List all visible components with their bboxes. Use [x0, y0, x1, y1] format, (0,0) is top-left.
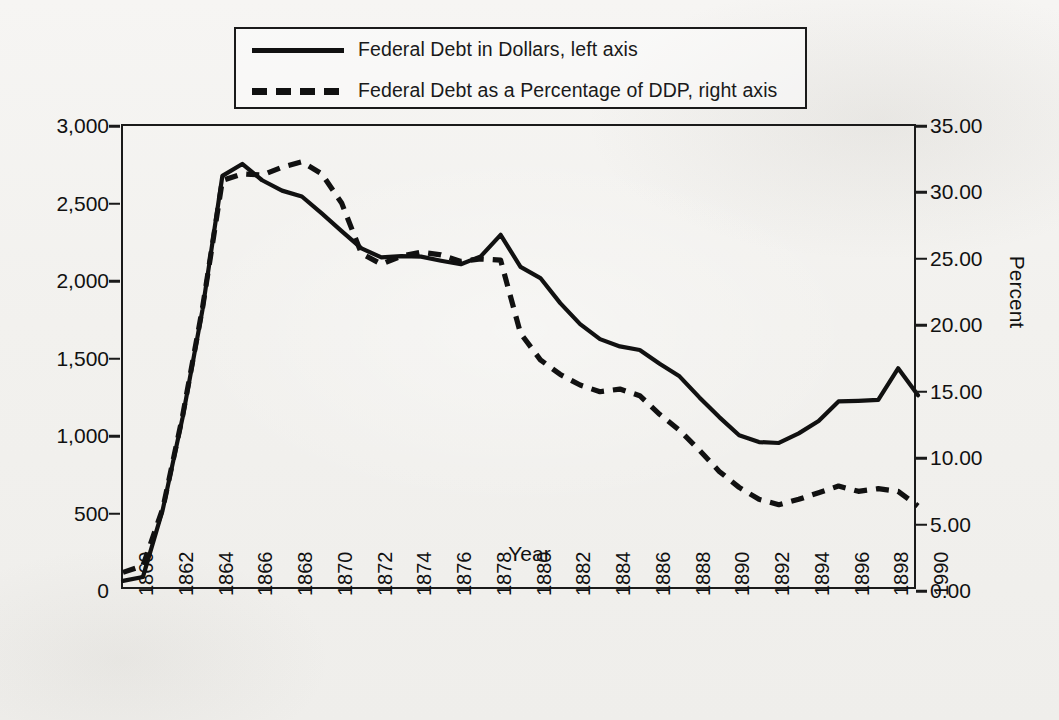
y-axis-right-tick-label: 15.00	[914, 380, 983, 404]
y-axis-left-tick-mark	[109, 357, 120, 360]
y-axis-right-tick-mark	[916, 390, 927, 393]
legend-label-federal-debt-dollars: Federal Debt in Dollars, left axis	[358, 38, 638, 61]
x-axis-title: Year	[0, 542, 1059, 566]
y-axis-left-tick-mark	[109, 512, 120, 515]
y-axis-right-tick-label: 35.00	[914, 114, 983, 138]
y-axis-left-tick-label: 1,000	[56, 424, 123, 448]
plot-area: 05001,0001,5002,0002,5003,000 0.005.0010…	[121, 124, 916, 589]
series-line-federal-debt-dollars	[123, 164, 918, 581]
y-axis-right-tick-mark	[916, 457, 927, 460]
y-axis-left-tick-label: 2,500	[56, 192, 123, 216]
y-axis-right-tick-label: 5.00	[914, 513, 971, 537]
legend-entry-federal-debt-percentage: Federal Debt as a Percentage of DDP, rig…	[236, 70, 805, 111]
series-line-federal-debt-percentage	[123, 162, 918, 573]
y-axis-right-tick-label: 25.00	[914, 247, 983, 271]
chart-legend: Federal Debt in Dollars, left axis Feder…	[234, 27, 807, 109]
y-axis-right-tick-mark	[916, 258, 927, 261]
y-axis-right-tick-label: 30.00	[914, 180, 983, 204]
legend-swatch-dashed-line	[250, 83, 346, 99]
y-axis-right-tick-label: 10.00	[914, 446, 983, 470]
y-axis-left-tick-label: 1,500	[56, 347, 123, 371]
y-axis-left-tick-mark	[109, 435, 120, 438]
y-axis-right-tick-mark	[916, 191, 927, 194]
y-axis-right-title: Percent	[1005, 256, 1029, 328]
legend-label-federal-debt-percentage: Federal Debt as a Percentage of DDP, rig…	[358, 79, 777, 102]
y-axis-left-tick-mark	[109, 202, 120, 205]
y-axis-left-tick-mark	[109, 125, 120, 128]
figure-federal-debt-chart: Federal Debt in Dollars, left axis Feder…	[0, 0, 1059, 720]
y-axis-left-tick-label: 3,000	[56, 114, 123, 138]
y-axis-left-tick-label: 500	[74, 502, 123, 526]
y-axis-left-tick-label: 2,000	[56, 269, 123, 293]
y-axis-right-tick-label: 20.00	[914, 313, 983, 337]
data-series-layer	[123, 126, 918, 591]
y-axis-left-tick-mark	[109, 280, 120, 283]
y-axis-right-tick-mark	[916, 590, 927, 593]
y-axis-right-tick-mark	[916, 324, 927, 327]
y-axis-right-tick-mark	[916, 523, 927, 526]
y-axis-left-tick-label: 0	[97, 579, 123, 603]
y-axis-right-tick-mark	[916, 125, 927, 128]
legend-swatch-solid-line	[250, 42, 346, 58]
legend-entry-federal-debt-dollars: Federal Debt in Dollars, left axis	[236, 29, 805, 70]
